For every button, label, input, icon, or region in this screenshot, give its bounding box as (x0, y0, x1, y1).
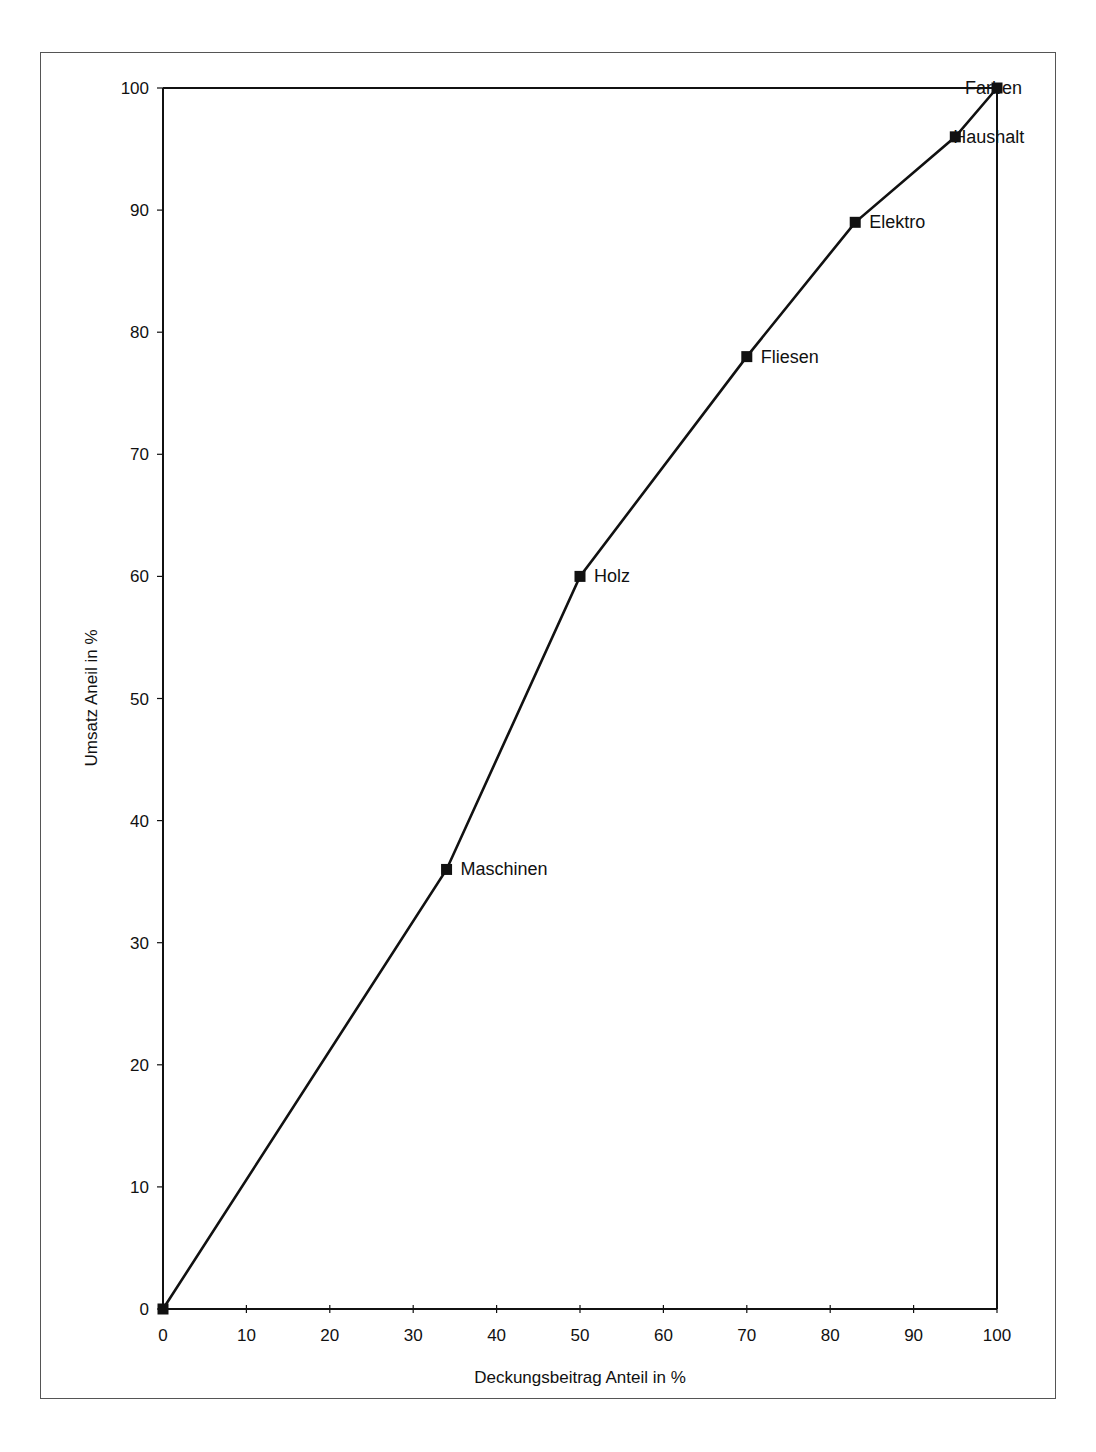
y-tick-label: 40 (130, 812, 149, 831)
x-tick-label: 20 (320, 1326, 339, 1345)
y-tick-label: 30 (130, 934, 149, 953)
data-point-marker (158, 1304, 169, 1315)
axes (163, 88, 997, 1309)
data-point-label: Maschinen (461, 859, 548, 879)
x-tick-label: 50 (571, 1326, 590, 1345)
data-point-label: Farben (965, 78, 1022, 98)
x-axis-title: Deckungsbeitrag Anteil in % (474, 1368, 686, 1387)
x-tick-label: 90 (904, 1326, 923, 1345)
x-tick-label: 10 (237, 1326, 256, 1345)
y-tick-label: 70 (130, 445, 149, 464)
data-point-marker (850, 217, 861, 228)
y-tick-label: 90 (130, 201, 149, 220)
data-series: MaschinenHolzFliesenElektroHaushaltFarbe… (158, 78, 1025, 1315)
x-tick-label: 40 (487, 1326, 506, 1345)
reference-lines (163, 88, 997, 1309)
x-tick-label: 0 (158, 1326, 167, 1345)
y-tick-label: 0 (140, 1300, 149, 1319)
series-line (163, 88, 997, 1309)
x-tick-label: 100 (983, 1326, 1011, 1345)
y-tick-label: 20 (130, 1056, 149, 1075)
x-tick-label: 70 (737, 1326, 756, 1345)
y-tick-label: 100 (121, 79, 149, 98)
y-tick-label: 80 (130, 323, 149, 342)
y-axis-ticks: 0102030405060708090100 (121, 79, 163, 1319)
y-tick-label: 50 (130, 690, 149, 709)
y-axis-title: Umsatz Aneil in % (82, 630, 101, 767)
x-axis-ticks: 0102030405060708090100 (158, 1305, 1011, 1345)
y-tick-label: 60 (130, 567, 149, 586)
data-point-label: Elektro (869, 212, 925, 232)
x-tick-label: 80 (821, 1326, 840, 1345)
y-tick-label: 10 (130, 1178, 149, 1197)
x-tick-label: 60 (654, 1326, 673, 1345)
data-point-marker (575, 571, 586, 582)
data-point-label: Haushalt (953, 127, 1024, 147)
data-point-marker (741, 351, 752, 362)
lorenz-chart: 0102030405060708090100 01020304050607080… (0, 0, 1096, 1452)
x-tick-label: 30 (404, 1326, 423, 1345)
data-point-label: Fliesen (761, 347, 819, 367)
data-point-marker (441, 864, 452, 875)
data-point-label: Holz (594, 566, 630, 586)
